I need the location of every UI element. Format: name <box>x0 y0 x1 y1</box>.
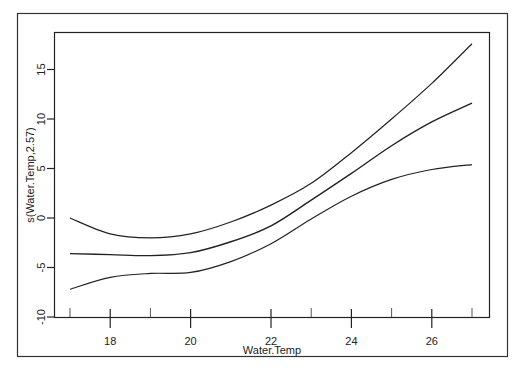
y-tick-label: 5 <box>35 165 47 171</box>
x-tick-label: 26 <box>426 335 438 347</box>
confidence-band-line <box>70 44 472 238</box>
y-tick-label: -10 <box>35 309 47 325</box>
x-axis-label: Water.Temp <box>243 344 301 356</box>
smooth-fit-line <box>70 103 472 256</box>
y-tick-label: 15 <box>35 63 47 75</box>
y-axis-label: s(Water.Temp,2.57) <box>24 127 36 223</box>
gam-smooth-plot: 1820222426 -10-5051015 Water.Temp s(Wate… <box>0 0 525 376</box>
x-tick-label: 18 <box>104 335 116 347</box>
outer-frame <box>18 14 508 357</box>
confidence-band-line <box>70 165 472 290</box>
x-tick-label: 20 <box>184 335 196 347</box>
x-axis: 1820222426 <box>104 309 438 347</box>
x-tick-label: 24 <box>345 335 357 347</box>
y-tick-label: 10 <box>35 113 47 125</box>
y-tick-label: -5 <box>35 263 47 273</box>
y-tick-label: 0 <box>35 215 47 221</box>
series-lines <box>70 44 472 290</box>
plot-box <box>55 33 490 318</box>
y-axis: -10-5051015 <box>35 63 55 325</box>
